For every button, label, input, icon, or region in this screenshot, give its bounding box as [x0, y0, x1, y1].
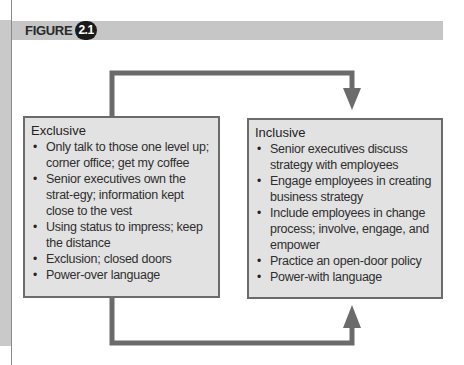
list-item: •Only talk to those one level up; corner…	[31, 139, 212, 171]
list-item: •Power-over language	[31, 267, 212, 283]
bullet-icon: •	[33, 171, 37, 187]
bullet-icon: •	[33, 219, 37, 235]
exclusive-box: Exclusive •Only talk to those one level …	[23, 116, 220, 298]
list-item: •Senior executives discuss strategy with…	[255, 141, 435, 173]
top-arrow-icon	[112, 73, 361, 116]
bullet-icon: •	[257, 173, 261, 189]
bullet-icon: •	[257, 269, 261, 285]
list-item: •Include employees in change process; in…	[255, 205, 435, 253]
bullet-icon: •	[33, 267, 37, 283]
list-item: •Power-with language	[255, 269, 435, 285]
list-item: •Exclusion; closed doors	[31, 251, 212, 267]
bottom-arrow-icon	[112, 297, 361, 343]
list-item: •Engage employees in creating business s…	[255, 173, 435, 205]
bullet-icon: •	[257, 141, 261, 157]
bullet-icon: •	[33, 139, 37, 155]
exclusive-title: Exclusive	[31, 122, 212, 139]
list-item: •Senior executives own the strat-egy; in…	[31, 171, 212, 219]
bullet-icon: •	[33, 251, 37, 267]
inclusive-title: Inclusive	[255, 124, 435, 141]
inclusive-list: •Senior executives discuss strategy with…	[255, 141, 435, 285]
list-item: •Practice an open-door policy	[255, 253, 435, 269]
bullet-icon: •	[257, 253, 261, 269]
inclusive-box: Inclusive •Senior executives discuss str…	[247, 118, 443, 299]
bullet-icon: •	[257, 205, 261, 221]
list-item: •Using status to impress; keep the dista…	[31, 219, 212, 251]
exclusive-list: •Only talk to those one level up; corner…	[31, 139, 212, 283]
